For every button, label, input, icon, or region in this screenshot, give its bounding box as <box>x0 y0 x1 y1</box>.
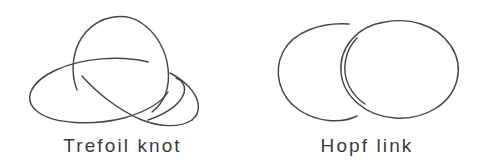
trefoil-upper-loop-left <box>73 17 140 90</box>
trefoil-lower-strand <box>82 76 192 126</box>
hopf-link-drawing <box>245 0 489 135</box>
hopf-right-circle <box>341 21 458 118</box>
trefoil-knot-panel: Trefoil knot <box>0 0 245 168</box>
hopf-link-panel: Hopf link <box>245 0 489 168</box>
trefoil-ellipse-arc-right <box>148 78 185 120</box>
trefoil-right-connector <box>170 73 198 120</box>
trefoil-knot-drawing <box>0 0 245 135</box>
trefoil-upper-loop-right <box>140 22 168 112</box>
hopf-link-caption: Hopf link <box>245 135 489 157</box>
trefoil-ellipse-arc-main <box>30 58 168 123</box>
hopf-left-circle-inner-arc <box>345 38 365 104</box>
knot-diagram-figure: Trefoil knot Hopf link <box>0 0 489 168</box>
trefoil-knot-caption: Trefoil knot <box>0 135 245 157</box>
